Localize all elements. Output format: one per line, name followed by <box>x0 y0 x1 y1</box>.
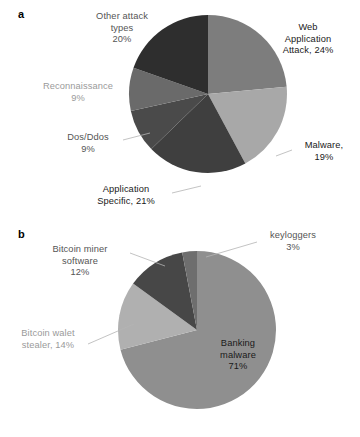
label-banking-malware: Banking malware 71% <box>200 338 276 373</box>
leader-application-specific <box>172 186 201 193</box>
label-malware: Malware, 19% <box>290 140 358 163</box>
panel-a: a Web Application Attack, 24% Malware, 1… <box>0 0 360 218</box>
panel-b: b keyloggers 3% Bitcoin miner software 1… <box>0 218 360 437</box>
leader-dosddos <box>123 133 150 140</box>
label-dosddos: Dos/Ddos 9% <box>53 132 123 155</box>
label-bitcoin-miner-software: Bitcoin miner software 12% <box>30 244 130 279</box>
label-web-application-attack: Web Application Attack, 24% <box>258 22 358 57</box>
label-bitcoin-walet-stealer: Bitcoin walet stealer, 14% <box>2 328 94 351</box>
label-other-attack-types: Other attack types 20% <box>80 11 164 46</box>
leader-bitcoin-walet <box>88 324 134 344</box>
label-reconnaissance: Reconnaissance 9% <box>30 81 126 104</box>
leader-bitcoin-miner <box>130 253 165 266</box>
label-keyloggers: keyloggers 3% <box>248 230 338 253</box>
label-application-specific: Application Specific, 21% <box>80 184 172 207</box>
